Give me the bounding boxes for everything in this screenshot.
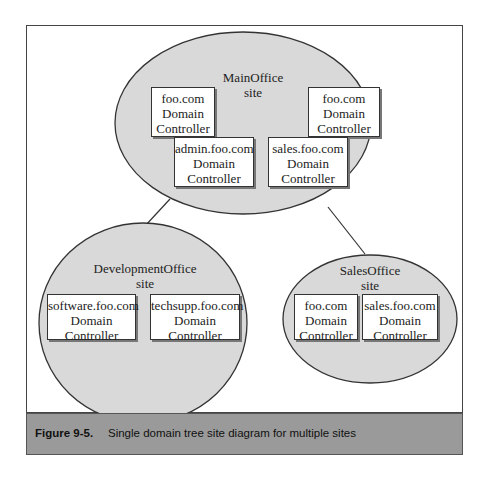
- domain-controller-box: foo.com Domain Controller: [151, 87, 215, 137]
- domain-controller-box: sales.foo.com Domain Controller: [362, 294, 438, 340]
- figure-number: Figure 9-5.: [35, 427, 93, 439]
- dc-line3: Controller: [269, 171, 347, 186]
- site-name: SalesOffice: [330, 263, 410, 278]
- domain-controller-box: software.foo.com Domain Controller: [47, 294, 136, 340]
- dc-line2: Domain: [309, 106, 379, 121]
- dc-line3: Controller: [152, 121, 214, 136]
- dc-line2: Domain: [151, 313, 239, 328]
- dc-line2: Domain: [363, 313, 437, 328]
- dc-line2: Domain: [152, 106, 214, 121]
- dc-domain: foo.com: [295, 298, 357, 313]
- site-name: DevelopmentOffice: [92, 261, 198, 276]
- dc-line3: Controller: [295, 328, 357, 343]
- dc-line3: Controller: [151, 328, 239, 343]
- connector-main-sales: [328, 207, 365, 254]
- figure-caption-bar: Figure 9-5. Single domain tree site diag…: [26, 413, 463, 455]
- dc-domain: foo.com: [309, 91, 379, 106]
- dc-domain: admin.foo.com: [175, 141, 253, 156]
- site-suffix: site: [330, 278, 410, 293]
- site-suffix: site: [213, 85, 293, 100]
- figure-caption-text: Single domain tree site diagram for mult…: [108, 427, 356, 439]
- dc-line2: Domain: [295, 313, 357, 328]
- mainoffice-site-label: MainOffice site: [213, 70, 293, 100]
- dc-line2: Domain: [48, 313, 135, 328]
- domain-controller-box: sales.foo.com Domain Controller: [268, 137, 348, 187]
- domain-controller-box: foo.com Domain Controller: [308, 87, 380, 137]
- domain-controller-box: techsupp.foo.com Domain Controller: [150, 294, 240, 340]
- dc-domain: sales.foo.com: [363, 298, 437, 313]
- domain-controller-box: foo.com Domain Controller: [294, 294, 358, 340]
- dc-line3: Controller: [48, 328, 135, 343]
- dc-line2: Domain: [175, 156, 253, 171]
- developmentoffice-site-label: DevelopmentOffice site: [92, 261, 198, 291]
- dc-line3: Controller: [363, 328, 437, 343]
- dc-domain: foo.com: [152, 91, 214, 106]
- site-suffix: site: [92, 276, 198, 291]
- dc-line2: Domain: [269, 156, 347, 171]
- dc-domain: techsupp.foo.com: [151, 298, 239, 313]
- site-name: MainOffice: [213, 70, 293, 85]
- dc-line3: Controller: [175, 171, 253, 186]
- dc-domain: software.foo.com: [48, 298, 135, 313]
- salesoffice-site-label: SalesOffice site: [330, 263, 410, 293]
- connector-main-development: [145, 199, 170, 226]
- dc-line3: Controller: [309, 121, 379, 136]
- dc-domain: sales.foo.com: [269, 141, 347, 156]
- domain-controller-box: admin.foo.com Domain Controller: [174, 137, 254, 187]
